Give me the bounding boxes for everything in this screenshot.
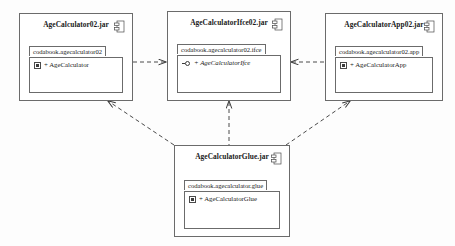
- component-icon: [271, 152, 282, 165]
- package-body: + AgeCalculator: [29, 57, 123, 93]
- package-label: codabook.agecalculator02: [29, 46, 106, 56]
- member-row[interactable]: + AgeCalculatorIfce: [178, 56, 280, 67]
- member-label: + AgeCalculatorGlue: [199, 195, 257, 203]
- class-icon: [34, 62, 41, 69]
- class-icon: [340, 62, 347, 69]
- package-box: codabook.agecalculator.glue + AgeCalcula…: [184, 174, 280, 229]
- package-body: + AgeCalculatorIfce: [177, 55, 281, 93]
- dep-glue-to-right: [286, 101, 350, 145]
- member-row[interactable]: + AgeCalculatorGlue: [185, 192, 279, 203]
- member-label: + AgeCalculator: [44, 61, 89, 69]
- member-row[interactable]: + AgeCalculatorApp: [336, 58, 432, 69]
- member-label: + AgeCalculatorIfce: [194, 59, 250, 67]
- component-agecalculatorapp02[interactable]: AgeCalculatorApp02.jar codabook.agecalcu…: [325, 13, 443, 101]
- package-box: codabook.agecalculator02.ifce + AgeCalcu…: [177, 38, 281, 93]
- component-icon: [114, 20, 125, 33]
- member-label: + AgeCalculatorApp: [350, 61, 407, 69]
- package-box: codabook.agecalculator02 + AgeCalculator: [29, 40, 123, 93]
- interface-icon: [182, 60, 191, 67]
- package-label: codabook.agecalculator02.app: [335, 46, 423, 56]
- class-icon: [189, 196, 196, 203]
- component-agecalculatorglue[interactable]: AgeCalculatorGlue.jar codabook.agecalcul…: [174, 145, 290, 237]
- package-body: + AgeCalculatorApp: [335, 57, 433, 93]
- package-box: codabook.agecalculator02.app + AgeCalcul…: [335, 40, 433, 93]
- package-body: + AgeCalculatorGlue: [184, 191, 280, 229]
- component-icon: [272, 18, 283, 31]
- package-label: codabook.agecalculator.glue: [184, 180, 267, 190]
- member-row[interactable]: + AgeCalculator: [30, 58, 122, 69]
- uml-component-diagram-canvas: AgeCalculator02.jar codabook.agecalculat…: [0, 0, 455, 246]
- component-icon: [424, 20, 435, 33]
- component-agecalculator02[interactable]: AgeCalculator02.jar codabook.agecalculat…: [19, 13, 133, 101]
- dep-glue-to-left: [108, 101, 174, 145]
- component-agecalculatorifce02[interactable]: AgeCalculatorIfce02.jar codabook.agecalc…: [167, 11, 291, 101]
- package-label: codabook.agecalculator02.ifce: [177, 44, 266, 54]
